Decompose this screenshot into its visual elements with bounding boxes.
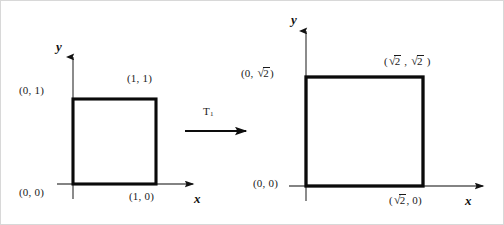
- domain-vertex-label-top-left: (0, 1): [19, 85, 44, 96]
- range-tl-tail: ): [270, 67, 274, 79]
- range-br-tail: , 0): [406, 194, 421, 206]
- operator-subscript: 1: [210, 110, 214, 118]
- range-tr-tail: ): [427, 55, 431, 67]
- figure-canvas: y x (0, 1) (1, 1) (0, 0) (1, 0) T1 y x (…: [0, 0, 504, 225]
- range-tl-radicand: 2: [263, 67, 270, 80]
- range-tl-open: (0,: [241, 67, 254, 79]
- unit-square-outline: [73, 99, 156, 184]
- domain-vertex-label-top-right: (1, 1): [127, 73, 152, 84]
- domain-plot-axes: [57, 57, 193, 199]
- sqrt-icon: √2: [256, 67, 270, 80]
- domain-y-axis-label: y: [56, 40, 62, 53]
- range-x-axis-label: x: [465, 194, 472, 207]
- range-vertex-label-origin: (0, 0): [253, 178, 278, 189]
- sqrt-icon: √2: [393, 194, 407, 207]
- sqrt-icon: √2: [388, 55, 402, 68]
- domain-unit-square: [73, 99, 156, 184]
- range-image-square: [306, 77, 423, 186]
- range-tr-mid: ,: [404, 55, 407, 67]
- range-br-radicand: 2: [399, 194, 406, 207]
- transformation-operator-label: T1: [203, 106, 214, 118]
- range-tr-radicand: 2: [394, 55, 401, 68]
- sqrt-icon: √2: [410, 55, 424, 68]
- domain-vertex-label-origin: (0, 0): [19, 187, 44, 198]
- range-vertex-label-bottom-right: (√2, 0): [389, 194, 422, 207]
- operator-symbol: T: [203, 105, 210, 117]
- range-y-axis-label: y: [291, 13, 297, 26]
- image-square-outline: [306, 77, 423, 186]
- domain-x-axis-label: x: [194, 192, 201, 205]
- range-tr-radicand-2: 2: [417, 55, 424, 68]
- range-vertex-label-top-left: (0, √2): [241, 67, 274, 80]
- diagram-svg: [1, 1, 504, 225]
- range-vertex-label-top-right: (√2 , √2 ): [384, 55, 431, 68]
- domain-vertex-label-bottom-right: (1, 0): [129, 191, 154, 202]
